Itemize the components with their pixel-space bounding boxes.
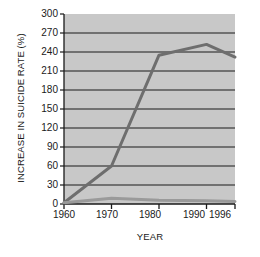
chart-figure: INCREASE IN SUICIDE RATE (%) YEAR 300 27… [0, 0, 260, 257]
plot-area [0, 0, 260, 257]
